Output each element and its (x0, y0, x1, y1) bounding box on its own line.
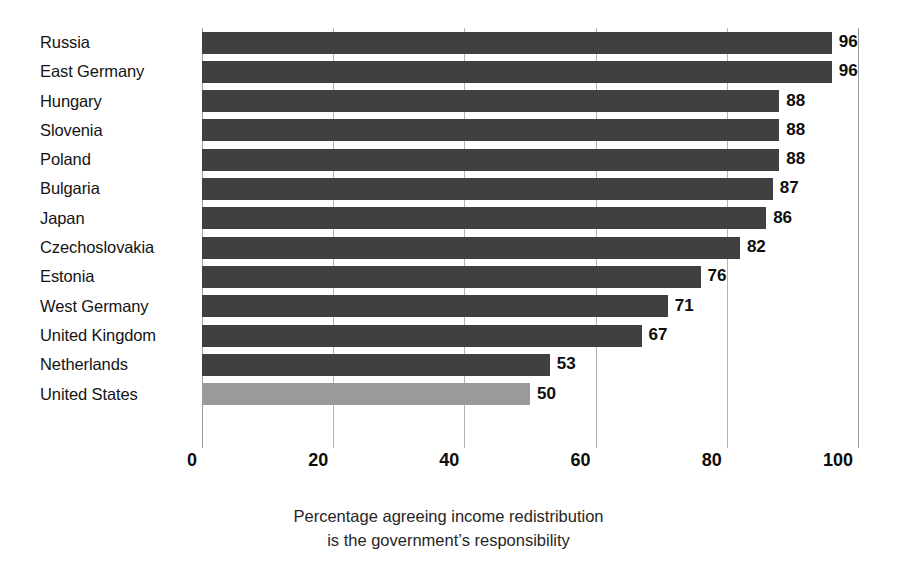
bar-track: 50 (202, 380, 860, 409)
bar-track: 87 (202, 174, 860, 203)
x-tick-label-60: 60 (571, 450, 596, 471)
bar-value-label: 76 (708, 265, 727, 287)
category-label: East Germany (40, 57, 196, 86)
bar-chart-figure: Russia96East Germany96Hungary88Slovenia8… (0, 0, 897, 580)
chart-row: Slovenia88 (40, 116, 860, 145)
bar-track: 71 (202, 292, 860, 321)
category-label: Hungary (40, 87, 196, 116)
x-axis: 020406080100 (202, 450, 858, 476)
category-label: Japan (40, 204, 196, 233)
chart-row: Estonia76 (40, 262, 860, 291)
bar-value-label: 53 (557, 353, 576, 375)
bar (202, 178, 773, 200)
bar (202, 266, 701, 288)
category-label: Netherlands (40, 350, 196, 379)
bar (202, 207, 766, 229)
plot-area: Russia96East Germany96Hungary88Slovenia8… (40, 28, 860, 440)
x-tick-label-80: 80 (702, 450, 727, 471)
category-label: Russia (40, 28, 196, 57)
bar-track: 88 (202, 87, 860, 116)
axis-caption: Percentage agreeing income redistributio… (0, 504, 897, 552)
x-tick-label-40: 40 (439, 450, 464, 471)
axis-caption-line: is the government’s responsibility (0, 528, 897, 552)
bar (202, 295, 668, 317)
bar (202, 90, 779, 112)
bar-value-label: 86 (773, 207, 792, 229)
x-tick-label-20: 20 (308, 450, 333, 471)
bar (202, 119, 779, 141)
bar (202, 325, 642, 347)
category-label: United Kingdom (40, 321, 196, 350)
bar-value-label: 88 (786, 119, 805, 141)
chart-row: Netherlands53 (40, 350, 860, 379)
chart-row: East Germany96 (40, 57, 860, 86)
bar-value-label: 87 (780, 177, 799, 199)
chart-row: United States50 (40, 380, 860, 409)
bar (202, 61, 832, 83)
bar-value-label: 82 (747, 236, 766, 258)
bar-track: 53 (202, 350, 860, 379)
bar-track: 76 (202, 262, 860, 291)
bar-value-label: 96 (839, 31, 858, 53)
bar-track: 88 (202, 116, 860, 145)
bar-value-label: 88 (786, 90, 805, 112)
category-label: Bulgaria (40, 174, 196, 203)
chart-row: Russia96 (40, 28, 860, 57)
chart-row: United Kingdom67 (40, 321, 860, 350)
bar-track: 88 (202, 145, 860, 174)
bar-track: 67 (202, 321, 860, 350)
x-tick-label-100: 100 (823, 450, 858, 471)
x-tick-label-0: 0 (187, 450, 202, 471)
bar (202, 32, 832, 54)
chart-row: Czechoslovakia82 (40, 233, 860, 262)
axis-caption-line: Percentage agreeing income redistributio… (0, 504, 897, 528)
chart-row: Japan86 (40, 204, 860, 233)
category-label: United States (40, 380, 196, 409)
bar (202, 383, 530, 405)
chart-row: Hungary88 (40, 87, 860, 116)
bar-value-label: 67 (649, 324, 668, 346)
category-label: Estonia (40, 262, 196, 291)
bar (202, 149, 779, 171)
bar (202, 237, 740, 259)
bar-value-label: 96 (839, 60, 858, 82)
bar-track: 86 (202, 204, 860, 233)
category-label: Slovenia (40, 116, 196, 145)
bar-value-label: 71 (675, 295, 694, 317)
bar-track: 96 (202, 28, 860, 57)
category-label: West Germany (40, 292, 196, 321)
category-label: Poland (40, 145, 196, 174)
bar-value-label: 88 (786, 148, 805, 170)
chart-row: Bulgaria87 (40, 174, 860, 203)
category-label: Czechoslovakia (40, 233, 196, 262)
bar-track: 82 (202, 233, 860, 262)
chart-row: West Germany71 (40, 292, 860, 321)
bar-value-label: 50 (537, 383, 556, 405)
bar (202, 354, 550, 376)
bar-track: 96 (202, 57, 860, 86)
chart-row: Poland88 (40, 145, 860, 174)
